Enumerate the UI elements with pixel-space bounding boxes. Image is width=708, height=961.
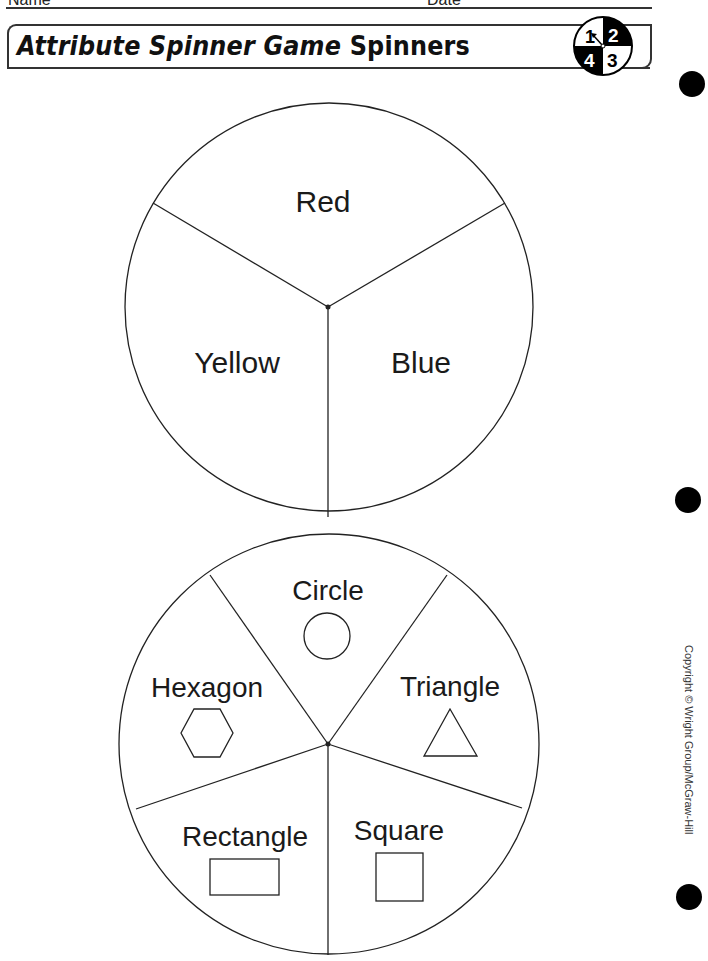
hexagon-shape-icon: [181, 709, 233, 757]
rectangle-shape-icon: [210, 859, 279, 895]
shape-spinner: Circle Triangle Square Rectangle Hexagon: [0, 0, 708, 961]
triangle-shape-icon: [424, 709, 477, 756]
section-label-triangle: Triangle: [400, 671, 500, 702]
section-label-rectangle: Rectangle: [182, 821, 308, 852]
section-label-hexagon: Hexagon: [151, 672, 263, 703]
copyright-notice: Copyright © Wright Group/McGraw-Hill: [683, 645, 695, 834]
section-label-square: Square: [354, 815, 444, 846]
circle-shape-icon: [304, 613, 350, 659]
spinner-center-dot: [326, 742, 331, 747]
square-shape-icon: [376, 853, 423, 901]
section-label-circle: Circle: [292, 575, 364, 606]
